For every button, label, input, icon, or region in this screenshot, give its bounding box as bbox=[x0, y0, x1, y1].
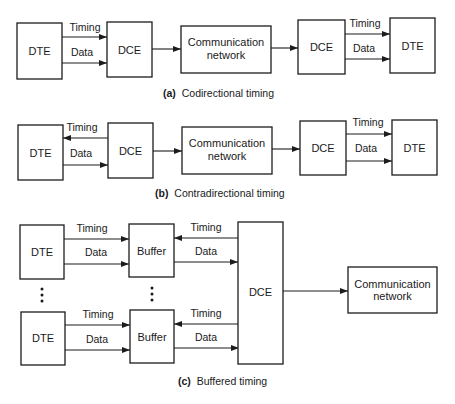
ellipsis-dots-dte bbox=[41, 288, 44, 303]
dce-label-right: DCE bbox=[310, 41, 333, 53]
data-label: Data bbox=[71, 46, 93, 58]
dte-label-right: DTE bbox=[404, 142, 426, 154]
timing-label: Timing bbox=[190, 221, 221, 233]
network-label-line2: network bbox=[208, 150, 247, 162]
dce-label: DCE bbox=[249, 286, 272, 298]
buffer-label-top: Buffer bbox=[137, 245, 166, 257]
timing-label: Timing bbox=[76, 222, 107, 234]
timing-label: Timing bbox=[190, 307, 221, 319]
caption-text: Contradirectional timing bbox=[174, 187, 284, 199]
caption-text: Buffered timing bbox=[197, 375, 268, 387]
buffer-label-bottom: Buffer bbox=[137, 331, 166, 343]
timing-label: Timing bbox=[352, 116, 383, 128]
dte-label-left: DTE bbox=[29, 45, 51, 57]
caption-prefix: (a) bbox=[163, 87, 176, 99]
caption-text: Codirectional timing bbox=[182, 87, 274, 99]
data-label: Data bbox=[85, 246, 107, 258]
caption-b: (b) Contradirectional timing bbox=[155, 187, 285, 199]
network-label-line1: Communication bbox=[189, 137, 265, 149]
network-label-line1: Communication bbox=[354, 278, 430, 290]
network-label-line2: network bbox=[373, 290, 412, 302]
section-a-codirectional: DTE Timing Data DCE Communication networ… bbox=[17, 17, 435, 99]
data-label: Data bbox=[86, 333, 108, 345]
data-label: Data bbox=[353, 42, 375, 54]
network-label-line1: Communication bbox=[188, 36, 264, 48]
data-label: Data bbox=[195, 331, 217, 343]
data-label: Data bbox=[355, 142, 377, 154]
data-label: Data bbox=[70, 147, 92, 159]
dte-label-bottom: DTE bbox=[32, 332, 54, 344]
dte-label-top: DTE bbox=[31, 246, 53, 258]
section-b-contradirectional: DTE Timing Data DCE Communication networ… bbox=[18, 116, 437, 199]
timing-label: Timing bbox=[69, 21, 100, 33]
dte-label-right: DTE bbox=[402, 40, 424, 52]
network-label-line2: network bbox=[207, 49, 246, 61]
timing-label: Timing bbox=[349, 17, 380, 29]
dce-label-right: DCE bbox=[311, 142, 334, 154]
dce-label-left: DCE bbox=[118, 44, 141, 56]
dce-label-left: DCE bbox=[119, 145, 142, 157]
caption-a: (a) Codirectional timing bbox=[163, 87, 274, 99]
timing-label: Timing bbox=[82, 308, 113, 320]
timing-diagram: DTE Timing Data DCE Communication networ… bbox=[0, 0, 455, 404]
caption-prefix: (c) bbox=[178, 375, 191, 387]
timing-label: Timing bbox=[66, 121, 97, 133]
dte-label-left: DTE bbox=[30, 147, 52, 159]
caption-c: (c) Buffered timing bbox=[178, 375, 267, 387]
section-c-buffered: DTE Timing Data Buffer Timing Data DTE T… bbox=[20, 221, 437, 387]
ellipsis-dots-buffer bbox=[151, 287, 154, 302]
data-label: Data bbox=[195, 245, 217, 257]
caption-prefix: (b) bbox=[155, 187, 168, 199]
